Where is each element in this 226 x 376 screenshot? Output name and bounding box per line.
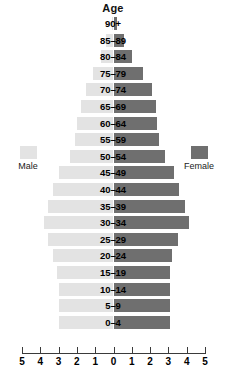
axis-tick [187, 347, 188, 353]
bar-female [114, 166, 174, 179]
bar-female [114, 283, 171, 296]
bar-male [59, 316, 114, 329]
bar-female [114, 299, 171, 312]
axis-tick [22, 347, 23, 353]
axis-tick-label: 1 [124, 356, 140, 367]
bar-female [114, 17, 118, 30]
bar-male [59, 283, 114, 296]
pyramid-row: 25–29 [0, 233, 226, 248]
bar-female [114, 233, 178, 246]
axis-tick-label: 2 [142, 356, 158, 367]
bar-female [114, 67, 143, 80]
axis-tick-label: 4 [179, 356, 195, 367]
bar-female [114, 183, 180, 196]
bar-female [114, 83, 152, 96]
bar-male [59, 166, 114, 179]
pyramid-row: 5–9 [0, 299, 226, 314]
pyramid-row: 65–69 [0, 100, 226, 115]
legend-swatch-female-icon [191, 146, 208, 159]
axis-tick-label: 1 [87, 356, 103, 367]
pyramid-row: 15–19 [0, 266, 226, 281]
bar-male [70, 150, 114, 163]
bar-male [44, 216, 114, 229]
legend-item-male: Male [6, 146, 50, 171]
axis-tick [114, 347, 115, 353]
axis-tick-label: 5 [14, 356, 30, 367]
pyramid-row: 60–64 [0, 117, 226, 132]
bar-male [106, 34, 113, 47]
bar-male [101, 50, 114, 63]
legend-label-male: Male [6, 161, 50, 171]
axis-tick [40, 347, 41, 353]
axis-tick-label: 3 [51, 356, 67, 367]
bar-female [114, 133, 160, 146]
bar-male [75, 133, 113, 146]
bar-male [57, 266, 114, 279]
pyramid-row: 40–44 [0, 183, 226, 198]
x-axis: 54321012345 [0, 345, 226, 373]
axis-tick-label: 4 [32, 356, 48, 367]
bar-male [86, 83, 113, 96]
pyramid-row: 70–74 [0, 83, 226, 98]
bar-female [114, 117, 158, 130]
pyramid-row: 90+ [0, 17, 226, 32]
population-pyramid-chart: Age 90+85–8980–8475–7970–7465–6960–6455–… [0, 0, 226, 376]
plot-area: 90+85–8980–8475–7970–7465–6960–6455–5950… [0, 17, 226, 342]
axis-tick [95, 347, 96, 353]
legend-swatch-male-icon [20, 146, 37, 159]
bar-male [93, 67, 113, 80]
axis-tick [59, 347, 60, 353]
pyramid-row: 75–79 [0, 67, 226, 82]
axis-tick [150, 347, 151, 353]
bar-male [48, 233, 114, 246]
bar-female [114, 50, 132, 63]
legend-label-female: Female [176, 161, 222, 171]
bar-male [59, 299, 114, 312]
bar-female [114, 266, 171, 279]
axis-tick [132, 347, 133, 353]
pyramid-row: 0–4 [0, 316, 226, 331]
bar-female [114, 150, 165, 163]
page-title: Age [0, 2, 226, 14]
axis-tick [168, 347, 169, 353]
bar-male [53, 249, 113, 262]
pyramid-row: 20–24 [0, 249, 226, 264]
bar-female [114, 200, 185, 213]
pyramid-row: 85–89 [0, 34, 226, 49]
axis-tick [77, 347, 78, 353]
axis-tick-label: 0 [106, 356, 122, 367]
bar-female [114, 100, 156, 113]
axis-tick-label: 5 [197, 356, 213, 367]
axis-line [22, 353, 206, 354]
bar-female [114, 249, 173, 262]
legend-item-female: Female [176, 146, 222, 171]
bar-female [114, 316, 171, 329]
bar-male [48, 200, 114, 213]
bar-female [114, 34, 125, 47]
bar-male [77, 117, 114, 130]
bar-male [81, 100, 114, 113]
pyramid-row: 30–34 [0, 216, 226, 231]
bar-male [53, 183, 113, 196]
bar-female [114, 216, 189, 229]
pyramid-row: 80–84 [0, 50, 226, 65]
axis-tick-label: 3 [160, 356, 176, 367]
axis-tick-label: 2 [69, 356, 85, 367]
pyramid-row: 10–14 [0, 283, 226, 298]
pyramid-row: 35–39 [0, 200, 226, 215]
axis-tick [205, 347, 206, 353]
